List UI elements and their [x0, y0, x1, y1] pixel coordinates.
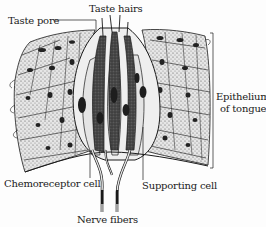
label-epithelium-line2: of tongue: [220, 103, 266, 114]
label-supporting-cell: Supporting cell: [142, 180, 217, 191]
label-nerve-fibers: Nerve fibers: [77, 214, 138, 225]
taste-bud-diagram: Taste pore Taste hairs Epithelium of ton…: [0, 0, 266, 227]
label-chemoreceptor-cell: Chemoreceptor cell: [4, 178, 100, 189]
label-epithelium-line1: Epithelium: [216, 91, 266, 102]
label-taste-hairs: Taste hairs: [89, 3, 142, 14]
label-taste-pore: Taste pore: [8, 15, 59, 26]
